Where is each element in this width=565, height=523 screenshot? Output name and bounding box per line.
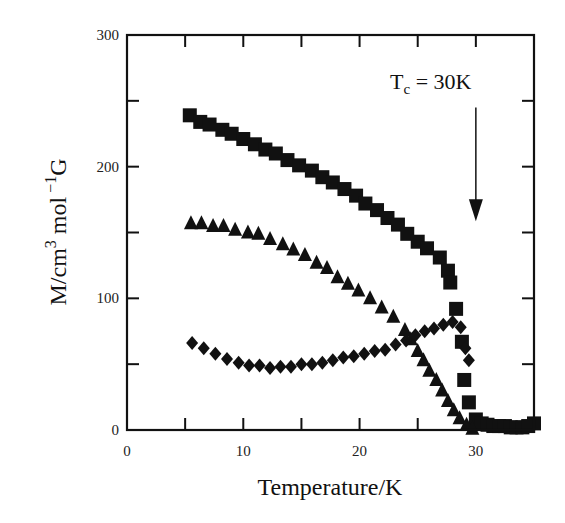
y-tick-label: 0	[112, 422, 120, 438]
x-tick-label: 0	[123, 443, 131, 459]
square-marker-icon	[203, 118, 217, 132]
tc-annotation: Tc = 30K	[390, 69, 483, 221]
diamond-marker-icon	[358, 347, 370, 361]
y-tick-label: 300	[97, 27, 120, 43]
y-axis-title-mid: mol	[45, 197, 71, 241]
triangle-marker-icon	[194, 215, 208, 229]
diamond-marker-icon	[390, 337, 402, 351]
tc-label: Tc = 30K	[390, 69, 472, 97]
diamond-marker-icon	[316, 356, 328, 370]
diamond-marker-icon	[337, 351, 349, 365]
diamond-marker-icon	[186, 336, 198, 350]
diamond-marker-icon	[285, 360, 297, 374]
diamond-marker-icon	[295, 357, 307, 371]
diamond-marker-icon	[348, 349, 360, 363]
diamond-marker-icon	[274, 360, 286, 374]
square-marker-icon	[443, 276, 457, 290]
plot-frame	[127, 35, 534, 430]
diamond-marker-icon	[198, 341, 210, 355]
x-tick-labels: 0102030	[123, 443, 483, 459]
y-tick-label: 200	[97, 159, 120, 175]
diamond-marker-icon	[254, 358, 266, 372]
diamond-marker-icon	[264, 361, 276, 375]
triangle-marker-icon	[375, 300, 389, 314]
x-tick-label: 30	[468, 443, 483, 459]
triangle-marker-icon	[217, 218, 231, 232]
y-axis-title-sup1: 3	[42, 240, 59, 248]
diamond-marker-icon	[306, 357, 318, 371]
square-marker-icon	[462, 395, 476, 409]
triangle-marker-icon	[310, 255, 324, 269]
diamond-marker-icon	[243, 358, 255, 372]
tc-label-main: T	[390, 69, 404, 94]
diamond-marker-icon	[327, 353, 339, 367]
diamond-marker-icon	[209, 347, 221, 361]
y-axis-title-base: M/cm	[45, 248, 71, 306]
square-marker-icon	[449, 302, 463, 316]
y-tick-label: 100	[97, 290, 120, 306]
triangle-marker-icon	[386, 309, 400, 323]
tc-arrow-head-icon	[469, 199, 483, 221]
x-axis-title: Temperature/K	[258, 474, 404, 500]
data-series	[183, 108, 541, 434]
triangle-marker-icon	[241, 225, 255, 239]
axis-ticks	[127, 35, 534, 430]
square-marker-icon	[457, 373, 471, 387]
diamond-marker-icon	[463, 353, 475, 367]
series-diamonds	[186, 315, 475, 375]
y-tick-labels: 0100200300	[97, 27, 120, 438]
triangle-marker-icon	[363, 290, 377, 304]
square-marker-icon	[420, 241, 434, 255]
triangle-marker-icon	[276, 236, 290, 250]
diamond-marker-icon	[221, 352, 233, 366]
diamond-marker-icon	[379, 343, 391, 357]
square-marker-icon	[433, 251, 447, 265]
triangle-marker-icon	[263, 231, 277, 245]
diamond-marker-icon	[233, 356, 245, 370]
x-tick-label: 20	[352, 443, 367, 459]
square-marker-icon	[292, 158, 306, 172]
triangle-marker-icon	[251, 226, 265, 240]
triangle-marker-icon	[228, 222, 242, 236]
magnetization-chart: 0102030 0100200300 Temperature/K M/cm3 m…	[0, 0, 565, 523]
series-squares	[183, 108, 541, 434]
tc-label-rest: = 30K	[410, 69, 471, 94]
y-axis-title-sup2: −1	[42, 176, 59, 197]
x-tick-label: 10	[236, 443, 251, 459]
diamond-marker-icon	[369, 344, 381, 358]
y-axis-title: M/cm3 mol −1G	[42, 158, 71, 305]
y-axis-title-end: G	[45, 158, 71, 175]
triangle-marker-icon	[298, 247, 312, 261]
